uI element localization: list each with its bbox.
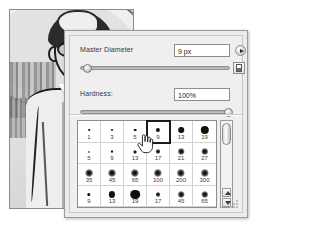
brush-size-label: 65 xyxy=(124,177,146,184)
brush-grid-scrollbar[interactable] xyxy=(220,120,233,208)
hardness-input[interactable]: 100% xyxy=(174,88,230,101)
brush-grid-area: 1359131959131721273545651002003009131917… xyxy=(77,120,239,208)
brush-size-label: 65 xyxy=(193,198,216,205)
brush-size-label: 45 xyxy=(170,198,192,205)
master-diameter-section: Master Diameter 9 px xyxy=(70,44,242,60)
brush-preset-cell[interactable]: 17 xyxy=(147,143,170,165)
brush-preset-icon[interactable] xyxy=(233,62,245,74)
scrollbar-thumb[interactable] xyxy=(222,123,231,145)
panel-divider xyxy=(70,114,242,116)
hardness-row: Hardness: 100% xyxy=(70,88,242,104)
brush-thumbnail-hard xyxy=(178,127,184,133)
brush-preset-cell[interactable]: 35 xyxy=(78,164,101,186)
brush-preset-cell[interactable]: 200 xyxy=(170,164,193,186)
brush-thumbnail-hard xyxy=(87,193,90,196)
brush-size-label: 100 xyxy=(147,177,169,184)
brush-thumbnail-hard xyxy=(109,191,115,197)
brush-size-label: 3 xyxy=(101,134,123,141)
brush-preset-cell[interactable]: 5 xyxy=(124,121,147,143)
brush-size-label: 19 xyxy=(124,198,146,205)
brush-preset-cell[interactable]: 300 xyxy=(193,164,216,186)
brush-preset-cell[interactable]: 45 xyxy=(170,186,193,208)
hardness-section: Hardness: 100% xyxy=(70,88,242,104)
panel-inner-frame: Master Diameter 9 px Hardness: 100% xyxy=(69,35,243,213)
brush-thumbnail-hard xyxy=(111,129,113,131)
brush-preset-cell[interactable]: 13 xyxy=(124,143,147,165)
brush-size-label: 200 xyxy=(170,177,192,184)
brush-size-label: 21 xyxy=(170,155,192,162)
brush-preset-cell[interactable]: 5 xyxy=(78,143,101,165)
brush-preset-cell[interactable]: 9 xyxy=(147,121,170,143)
brush-size-label: 13 xyxy=(101,198,123,205)
brush-size-label: 13 xyxy=(124,155,146,162)
brush-preset-cell[interactable]: 19 xyxy=(193,121,216,143)
brush-thumbnail-soft xyxy=(178,148,185,155)
master-diameter-input[interactable]: 9 px xyxy=(174,44,230,57)
brush-size-label: 17 xyxy=(147,198,169,205)
hardness-value: 100% xyxy=(178,91,196,100)
brush-thumbnail-soft xyxy=(156,192,161,197)
brush-thumbnail-hard xyxy=(156,128,160,132)
brush-size-label: 9 xyxy=(78,198,100,205)
panel-menu-triangle-icon[interactable] xyxy=(235,45,246,56)
brush-preset-cell[interactable]: 17 xyxy=(147,186,170,208)
brush-preset-cell[interactable]: 3 xyxy=(101,121,124,143)
master-diameter-label: Master Diameter xyxy=(80,46,133,53)
brush-preset-cell[interactable]: 45 xyxy=(101,164,124,186)
brush-size-label: 1 xyxy=(78,134,100,141)
preset-glyph-icon xyxy=(236,64,242,72)
brush-preset-cell[interactable]: 9 xyxy=(101,143,124,165)
brush-size-label: 13 xyxy=(170,134,192,141)
brush-thumbnail-soft xyxy=(88,151,90,153)
brush-preset-cell[interactable]: 13 xyxy=(170,121,193,143)
brush-preset-cell[interactable]: 65 xyxy=(193,186,216,208)
brush-preset-cell[interactable]: 13 xyxy=(101,186,124,208)
brush-size-label: 35 xyxy=(78,177,100,184)
brush-size-label: 5 xyxy=(78,155,100,162)
brush-size-label: 300 xyxy=(193,177,216,184)
brush-size-label: 45 xyxy=(101,177,123,184)
brush-preset-cell[interactable]: 19 xyxy=(124,186,147,208)
brush-preset-cell[interactable]: 9 xyxy=(78,186,101,208)
master-diameter-value: 9 px xyxy=(178,47,191,56)
brush-thumbnail-hard xyxy=(88,129,90,131)
brush-size-label: 17 xyxy=(147,155,169,162)
brush-thumbnail-soft xyxy=(156,149,161,154)
brush-thumbnail-soft xyxy=(111,150,114,153)
brush-size-label: 9 xyxy=(101,155,123,162)
brush-preset-cell[interactable]: 21 xyxy=(170,143,193,165)
resize-grip-icon[interactable] xyxy=(230,200,239,209)
brush-size-label: 27 xyxy=(193,155,216,162)
master-diameter-row: Master Diameter 9 px xyxy=(70,44,242,60)
brush-preset-picker-panel: Master Diameter 9 px Hardness: 100% xyxy=(64,30,248,218)
master-diameter-slider-thumb[interactable] xyxy=(83,64,92,73)
brush-preset-cell[interactable]: 1 xyxy=(78,121,101,143)
brush-thumbnail-soft xyxy=(133,150,137,154)
master-diameter-slider[interactable] xyxy=(80,66,230,70)
scroll-up-arrow-icon[interactable] xyxy=(222,188,231,197)
brush-preset-grid[interactable]: 1359131959131721273545651002003009131917… xyxy=(77,120,217,208)
brush-preset-cell[interactable]: 27 xyxy=(193,143,216,165)
brush-preset-cell[interactable]: 65 xyxy=(124,164,147,186)
brush-size-label: 9 xyxy=(147,134,169,141)
brush-size-label: 19 xyxy=(193,134,216,141)
brush-size-label: 5 xyxy=(124,134,146,141)
brush-thumbnail-hard xyxy=(134,129,137,132)
brush-preset-cell[interactable]: 100 xyxy=(147,164,170,186)
hardness-label: Hardness: xyxy=(80,90,113,97)
brush-thumbnail-soft xyxy=(178,191,185,198)
